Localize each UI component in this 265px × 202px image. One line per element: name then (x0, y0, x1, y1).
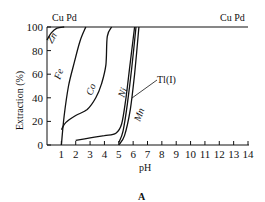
panel-label: A (138, 191, 146, 202)
x-tick-label: 13 (228, 148, 240, 160)
tl-leader-line (132, 80, 157, 98)
x-tick-label: 5 (116, 148, 122, 160)
x-tick-label: 10 (185, 148, 197, 160)
label-tl: Tl(I) (157, 74, 176, 86)
x-axis-title: pH (139, 162, 151, 173)
label-fe: Fe (51, 66, 65, 81)
curve-fe (61, 27, 85, 145)
extraction-chart: 020406080100 1234567891011121314 Cu Pd C… (0, 0, 265, 202)
x-tick-label: 1 (59, 148, 65, 160)
curve-mn (119, 27, 139, 145)
y-tick-label: 0 (38, 139, 44, 151)
y-tick-label: 40 (32, 92, 44, 104)
y-tick-label: 80 (32, 45, 44, 57)
x-tick-label: 12 (214, 148, 225, 160)
x-tick-label: 14 (243, 148, 255, 160)
label-zn: Zn (44, 30, 59, 45)
label-mn: Mn (131, 106, 146, 123)
label-cu-pd-right: Cu Pd (220, 12, 245, 23)
curve-ni (76, 27, 135, 140)
x-tick-label: 8 (159, 148, 165, 160)
y-tick-label: 60 (32, 68, 44, 80)
label-co: Co (84, 82, 98, 97)
x-tick-label: 3 (87, 148, 93, 160)
x-tick-label: 11 (200, 148, 211, 160)
x-tick-label: 6 (130, 148, 136, 160)
y-axis-title: Extraction (%) (14, 71, 26, 130)
y-tick-label: 100 (27, 21, 44, 33)
y-tick-label: 20 (32, 115, 44, 127)
x-tick-label: 7 (145, 148, 151, 160)
curve-co (61, 27, 111, 130)
x-tick-label: 9 (173, 148, 179, 160)
x-tick-label: 2 (73, 148, 79, 160)
curves (47, 27, 248, 145)
x-ticks: 1234567891011121314 (59, 141, 254, 160)
x-tick-label: 4 (102, 148, 108, 160)
label-cu-pd-left: Cu Pd (52, 12, 77, 23)
